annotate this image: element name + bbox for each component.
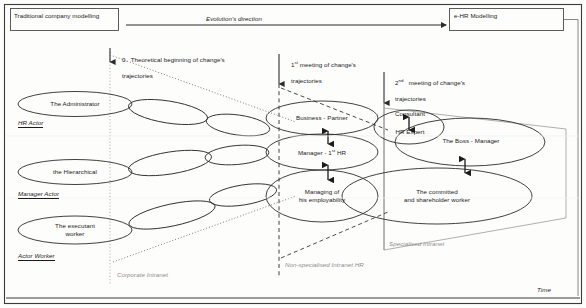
milestone-1-label: 1st meeting of change's trajectories xyxy=(284,52,356,93)
state-committed-worker: The committed and shareholder worker xyxy=(382,188,492,204)
state-executant-worker-line2: worker xyxy=(66,230,85,237)
ellipse-wk-3 xyxy=(208,180,278,210)
state-boss-manager: The Boss - Manager xyxy=(436,137,506,145)
milestone-1-line1: meeting of change's xyxy=(298,61,356,68)
state-manager-hr: Manager - 1st HR xyxy=(272,148,372,157)
state-committed-worker-line1: The committed xyxy=(416,188,458,195)
state-hierarchical: the Hierarchical xyxy=(38,168,112,176)
state-employability-line2: his employability xyxy=(299,196,345,203)
divergence-guide-upper xyxy=(281,88,388,130)
state-executant-worker-line1: The executant xyxy=(55,222,95,229)
milestone-0-line1: 0. Theoretical beginning of change's xyxy=(122,56,225,63)
state-manager-hr-pre: Manager - 1 xyxy=(298,149,332,156)
state-hr-expert: HR Expert xyxy=(386,128,434,136)
zone-label-specialised-intranet: Specialised Intranet xyxy=(389,240,444,248)
state-administrator: The Administrator xyxy=(38,100,112,108)
milestone-0-line2: trajectories xyxy=(122,72,153,79)
state-consultant: Consultant xyxy=(386,110,434,118)
ellipse-hr-2 xyxy=(127,95,209,129)
divergence-guide-lower xyxy=(281,212,388,258)
zone-label-corporate-intranet: Corporate Intranet xyxy=(117,271,168,279)
axis-label-actor-worker: Actor Worker xyxy=(18,252,55,261)
title-right: e-HR Modelling xyxy=(454,12,497,20)
axis-label-hr-actor: HR Actor xyxy=(18,119,43,128)
milestone-2-label: 2nd meeting of change's trajectories xyxy=(388,70,465,111)
state-employability: Managing of his employability xyxy=(282,188,362,204)
ellipse-mgr-3 xyxy=(204,143,269,168)
milestone-1-line2: trajectories xyxy=(291,77,322,84)
evolution-direction-label: Evolution's direction xyxy=(206,15,262,23)
state-committed-worker-line2: and shareholder worker xyxy=(404,196,470,203)
ellipse-hr-3 xyxy=(205,111,271,140)
milestone-0-label: 0. Theoretical beginning of change's tra… xyxy=(115,48,225,88)
state-business-partner: Business - Partner xyxy=(274,114,370,122)
state-employability-line1: Managing of xyxy=(305,188,340,195)
milestone-2-line2: trajectories xyxy=(395,95,426,102)
title-left: Traditional company modelling xyxy=(14,12,99,20)
state-executant-worker: The executant worker xyxy=(38,222,112,238)
diagram-canvas: Traditional company modelling e-HR Model… xyxy=(0,0,586,308)
ellipse-mgr-2 xyxy=(127,146,213,181)
axis-label-manager-actor: Manager Actor xyxy=(18,190,59,199)
zone-label-non-specialised-intranet: Non-specialised Intranet HR xyxy=(285,261,364,269)
state-manager-hr-post: HR xyxy=(335,149,346,156)
time-axis-label: Time xyxy=(537,286,551,294)
milestone-2-line1: meeting of change's xyxy=(404,79,465,86)
